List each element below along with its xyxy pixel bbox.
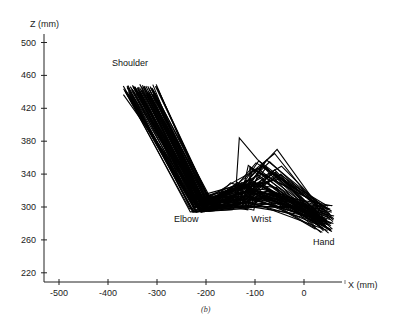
- trajectory-lines: [123, 84, 334, 233]
- y-tick-label: 500: [21, 38, 36, 48]
- x-tick-label: 0: [301, 288, 306, 298]
- y-tick-label: 300: [21, 202, 36, 212]
- x-tick-label: -400: [99, 288, 117, 298]
- label-wrist: Wrist: [251, 214, 272, 224]
- y-axis-ticks: 220260300340380420460500: [21, 38, 47, 278]
- figure-caption: (b): [201, 305, 211, 314]
- y-tick-label: 460: [21, 70, 36, 80]
- x-tick-label: -200: [197, 288, 215, 298]
- y-tick-label: 220: [21, 268, 36, 278]
- y-tick-label: 340: [21, 169, 36, 179]
- x-tick-label: -500: [50, 288, 68, 298]
- label-shoulder: Shoulder: [112, 58, 148, 68]
- label-elbow: Elbow: [174, 214, 199, 224]
- y-axis-title: Z (mm): [30, 19, 59, 29]
- y-tick-label: 260: [21, 235, 36, 245]
- y-tick-label: 420: [21, 103, 36, 113]
- x-axis-title: X (mm): [348, 280, 378, 290]
- x-tick-label: -100: [246, 288, 264, 298]
- x-tick-label: -300: [148, 288, 166, 298]
- arm-trajectory-chart: 220260300340380420460500 -500-400-300-20…: [0, 0, 402, 329]
- label-hand: Hand: [313, 237, 335, 247]
- y-tick-label: 380: [21, 136, 36, 146]
